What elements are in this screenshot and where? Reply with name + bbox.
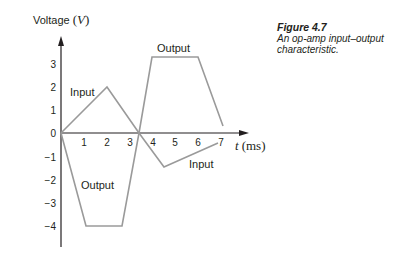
y-tick-label: 3 (50, 59, 56, 70)
x-tick-label: 3 (127, 137, 133, 148)
y-tick-label: 2 (50, 82, 56, 93)
figure-caption-text: An op-amp input–output characteristic. (277, 33, 393, 55)
input-label-upper: Input (70, 86, 94, 98)
output-label-lower: Output (81, 179, 114, 191)
y-tick-label: −3 (45, 198, 57, 209)
output-label-upper: Output (157, 42, 190, 54)
x-axis-arrow-icon (239, 130, 249, 136)
y-tick-label: −1 (45, 152, 57, 163)
input-label-lower: Input (189, 158, 213, 170)
x-tick-label: 7 (218, 137, 224, 148)
y-tick-label: −2 (45, 175, 57, 186)
y-axis-arrow-icon (58, 36, 64, 46)
x-tick-label: 5 (172, 137, 178, 148)
x-tick-label: 6 (195, 137, 201, 148)
figure-number: Figure 4.7 (277, 22, 393, 33)
x-tick-label: 2 (104, 137, 110, 148)
x-tick-label: 4 (150, 137, 156, 148)
x-tick-labels: 1 2 3 4 5 6 7 (81, 137, 224, 148)
y-axis-title: Voltage (V) (33, 12, 89, 27)
y-tick-label: 0 (50, 128, 56, 139)
y-tick-labels: 3 2 1 0 −1 −2 −3 −4 (45, 59, 57, 232)
x-tick-label: 1 (81, 137, 87, 148)
y-tick-label: −4 (45, 221, 57, 232)
x-axis-title: t(ms) (235, 138, 265, 153)
y-tick-label: 1 (50, 105, 56, 116)
figure-caption: Figure 4.7 An op-amp input–output charac… (277, 22, 393, 55)
